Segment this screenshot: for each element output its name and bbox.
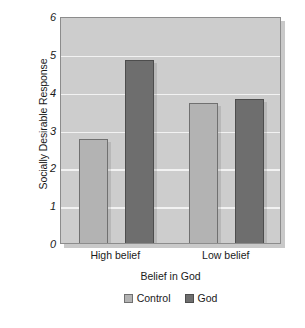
legend-entry-god: God bbox=[185, 292, 218, 304]
y-tick-label: 3 bbox=[38, 125, 56, 136]
gridline bbox=[61, 56, 280, 58]
y-tick-label: 1 bbox=[38, 201, 56, 212]
legend-label: Control bbox=[137, 292, 171, 304]
x-tick-label: High belief bbox=[90, 249, 140, 261]
legend-swatch-icon bbox=[185, 294, 194, 303]
cropped-caption-artifact bbox=[44, 1, 164, 8]
legend-swatch-icon bbox=[124, 294, 133, 303]
bar-god-low-belief bbox=[235, 99, 264, 244]
x-axis-tick-labels: High beliefLow belief bbox=[60, 249, 281, 265]
bar-control-low-belief bbox=[189, 103, 218, 244]
gridline bbox=[61, 94, 280, 96]
chart-legend: ControlGod bbox=[60, 292, 281, 304]
legend-label: God bbox=[198, 292, 218, 304]
y-tick-label: 5 bbox=[38, 49, 56, 60]
bar-control-high-belief bbox=[79, 139, 108, 244]
y-tick-label: 0 bbox=[38, 239, 56, 250]
legend-entry-control: Control bbox=[124, 292, 171, 304]
y-axis-tick-labels: 0123456 bbox=[38, 17, 56, 244]
x-axis-title: Belief in God bbox=[60, 270, 281, 282]
y-tick-label: 6 bbox=[38, 12, 56, 23]
y-tick-label: 2 bbox=[38, 163, 56, 174]
x-tick-label: Low belief bbox=[202, 249, 249, 261]
plot-area bbox=[60, 17, 281, 244]
bar-chart-figure: Socially Desirable Response 0123456 High… bbox=[0, 0, 305, 328]
bar-god-high-belief bbox=[125, 60, 154, 244]
y-tick-label: 4 bbox=[38, 87, 56, 98]
